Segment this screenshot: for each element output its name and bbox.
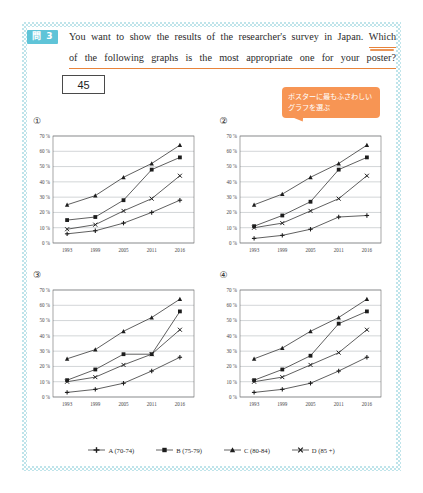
svg-text:60 %: 60 % <box>39 148 50 154</box>
question-sentence: You want to show the results of the rese… <box>69 31 363 42</box>
svg-text:20 %: 20 % <box>226 363 237 369</box>
svg-text:2011: 2011 <box>333 247 343 253</box>
svg-text:1999: 1999 <box>90 401 101 407</box>
triangle-line-marker-icon <box>224 446 241 454</box>
svg-text:50 %: 50 % <box>39 317 50 323</box>
svg-text:20 %: 20 % <box>39 363 50 369</box>
svg-text:0 %: 0 % <box>42 240 51 246</box>
legend-label-c: C (80-84) <box>244 447 270 454</box>
question-sentence-continued: of the following graphs is the most appr… <box>69 48 396 69</box>
svg-text:1999: 1999 <box>90 247 101 253</box>
graph-options-grid: ① 0 %10 %20 %30 %40 %50 %60 %70 %1993199… <box>27 115 396 417</box>
cross-line-marker-icon <box>292 446 309 454</box>
svg-text:60 %: 60 % <box>226 302 237 308</box>
svg-text:70 %: 70 % <box>39 287 50 293</box>
legend-label-b: B (75-79) <box>176 447 202 454</box>
option-label-3: ③ <box>33 269 210 281</box>
legend-label-d: D (85 +) <box>312 447 335 454</box>
svg-text:2011: 2011 <box>333 401 343 407</box>
svg-text:10 %: 10 % <box>39 379 50 385</box>
svg-text:50 %: 50 % <box>226 317 237 323</box>
answer-blank-box[interactable]: 45 <box>62 75 105 94</box>
svg-text:30 %: 30 % <box>226 348 237 354</box>
svg-text:0 %: 0 % <box>228 240 237 246</box>
svg-text:40 %: 40 % <box>39 333 50 339</box>
svg-text:2016: 2016 <box>175 247 186 253</box>
graph-option-3[interactable]: ③ 0 %10 %20 %30 %40 %50 %60 %70 %1993199… <box>27 269 210 417</box>
chart-4: 0 %10 %20 %30 %40 %50 %60 %70 %199319992… <box>214 282 389 417</box>
svg-text:10 %: 10 % <box>226 225 237 231</box>
hint-callout-line1: ポスターに最もふさわしい <box>288 91 374 102</box>
plus-line-marker-icon <box>88 446 105 454</box>
svg-text:2011: 2011 <box>147 401 157 407</box>
svg-text:1999: 1999 <box>277 401 288 407</box>
svg-text:2005: 2005 <box>118 247 129 253</box>
svg-text:30 %: 30 % <box>226 194 237 200</box>
option-label-1: ① <box>33 115 210 127</box>
svg-text:1993: 1993 <box>62 247 73 253</box>
svg-text:1993: 1993 <box>62 401 73 407</box>
svg-text:40 %: 40 % <box>226 179 237 185</box>
svg-text:2016: 2016 <box>175 401 186 407</box>
question-header: 問 3 <box>27 30 58 44</box>
option-label-2: ② <box>220 115 397 127</box>
svg-text:50 %: 50 % <box>39 163 50 169</box>
svg-text:0 %: 0 % <box>228 394 237 400</box>
svg-text:40 %: 40 % <box>39 179 50 185</box>
svg-text:40 %: 40 % <box>226 333 237 339</box>
svg-text:2011: 2011 <box>147 247 157 253</box>
answer-blank-number: 45 <box>77 79 89 91</box>
svg-text:30 %: 30 % <box>39 194 50 200</box>
legend-item-b: B (75-79) <box>156 446 202 454</box>
svg-text:1993: 1993 <box>249 247 260 253</box>
svg-text:60 %: 60 % <box>39 302 50 308</box>
svg-text:10 %: 10 % <box>226 379 237 385</box>
svg-text:20 %: 20 % <box>39 209 50 215</box>
question-text: You want to show the results of the rese… <box>69 27 396 69</box>
svg-text:70 %: 70 % <box>226 133 237 139</box>
svg-text:0 %: 0 % <box>42 394 51 400</box>
svg-text:10 %: 10 % <box>39 225 50 231</box>
hint-callout: ポスターに最もふさわしい グラフを選ぶ <box>282 87 380 118</box>
question-number-badge: 問 3 <box>27 30 58 44</box>
svg-text:50 %: 50 % <box>226 163 237 169</box>
legend-label-a: A (70-74) <box>108 447 134 454</box>
shared-legend: A (70-74) B (75-79) C (80-84) D (85 +) <box>27 446 396 454</box>
svg-text:2005: 2005 <box>305 247 316 253</box>
graph-option-1[interactable]: ① 0 %10 %20 %30 %40 %50 %60 %70 %1993199… <box>27 115 210 263</box>
question-underline-start: Which <box>369 27 396 48</box>
square-line-marker-icon <box>156 446 173 454</box>
legend-item-c: C (80-84) <box>224 446 270 454</box>
svg-text:2016: 2016 <box>361 401 372 407</box>
svg-text:2005: 2005 <box>305 401 316 407</box>
svg-text:20 %: 20 % <box>226 209 237 215</box>
hint-callout-line2: グラフを選ぶ <box>288 102 374 113</box>
svg-text:1993: 1993 <box>249 401 260 407</box>
svg-text:30 %: 30 % <box>39 348 50 354</box>
chart-1: 0 %10 %20 %30 %40 %50 %60 %70 %199319992… <box>27 128 202 263</box>
legend-item-d: D (85 +) <box>292 446 335 454</box>
svg-text:1999: 1999 <box>277 247 288 253</box>
chart-2: 0 %10 %20 %30 %40 %50 %60 %70 %199319992… <box>214 128 389 263</box>
option-label-4: ④ <box>220 269 397 281</box>
svg-text:2016: 2016 <box>361 247 372 253</box>
svg-text:70 %: 70 % <box>39 133 50 139</box>
svg-text:70 %: 70 % <box>226 287 237 293</box>
chart-3: 0 %10 %20 %30 %40 %50 %60 %70 %199319992… <box>27 282 202 417</box>
svg-text:2005: 2005 <box>118 401 129 407</box>
graph-option-2[interactable]: ② 0 %10 %20 %30 %40 %50 %60 %70 %1993199… <box>214 115 397 263</box>
legend-item-a: A (70-74) <box>88 446 134 454</box>
question-page-content: 問 3 You want to show the results of the … <box>27 27 396 466</box>
graph-option-4[interactable]: ④ 0 %10 %20 %30 %40 %50 %60 %70 %1993199… <box>214 269 397 417</box>
svg-text:60 %: 60 % <box>226 148 237 154</box>
